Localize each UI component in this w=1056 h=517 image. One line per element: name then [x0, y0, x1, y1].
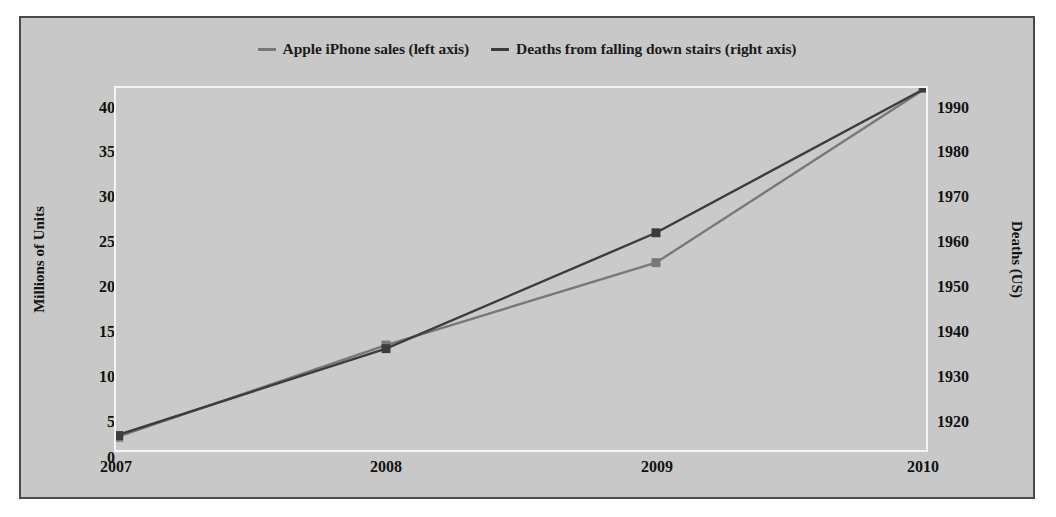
legend-item-iphone[interactable]: Apple iPhone sales (left axis)	[258, 40, 469, 58]
data-point-marker[interactable]	[382, 344, 391, 353]
series-line-2	[116, 88, 926, 436]
y-right-tick-1990: 1990	[937, 100, 969, 116]
y-left-tick-35: 35	[99, 144, 115, 160]
y-left-tick-40: 40	[99, 100, 115, 116]
chart-frame: Apple iPhone sales (left axis) Deaths fr…	[19, 16, 1035, 499]
y-right-tick-1930: 1930	[937, 369, 969, 385]
y-axis-left-title: Millions of Units	[27, 18, 51, 501]
plot-area	[114, 86, 928, 452]
y-right-tick-1920: 1920	[937, 414, 969, 430]
y-right-tick-1960: 1960	[937, 234, 969, 250]
legend-line-icon-deaths	[491, 48, 509, 51]
legend-label-deaths: Deaths from falling down stairs (right a…	[516, 40, 796, 58]
y-axis-left-title-text: Millions of Units	[31, 206, 48, 313]
y-right-tick-1970: 1970	[937, 189, 969, 205]
series-line-1	[116, 88, 926, 437]
legend-label-iphone: Apple iPhone sales (left axis)	[283, 40, 469, 58]
y-left-tick-20: 20	[99, 279, 115, 295]
y-axis-right-title-text: Deaths (US)	[1009, 221, 1026, 298]
plot-svg	[116, 88, 926, 450]
x-tick-2009: 2009	[641, 458, 673, 476]
data-point-marker[interactable]	[116, 431, 123, 440]
x-tick-2010: 2010	[907, 458, 939, 476]
y-left-tick-15: 15	[99, 324, 115, 340]
y-left-tick-25: 25	[99, 234, 115, 250]
data-point-marker[interactable]	[652, 258, 661, 267]
y-axis-left-ticks: 40 35 30 25 20 15 10 5 0	[49, 18, 115, 501]
data-point-marker[interactable]	[919, 88, 926, 92]
y-left-tick-10: 10	[99, 369, 115, 385]
y-axis-right-title: Deaths (US)	[1005, 18, 1029, 501]
y-left-tick-30: 30	[99, 189, 115, 205]
y-right-tick-1950: 1950	[937, 279, 969, 295]
chart-page: Apple iPhone sales (left axis) Deaths fr…	[0, 0, 1056, 517]
legend-item-deaths[interactable]: Deaths from falling down stairs (right a…	[491, 40, 796, 58]
y-right-tick-1980: 1980	[937, 144, 969, 160]
x-axis-ticks: 2007 2008 2009 2010	[114, 458, 928, 484]
y-right-tick-1940: 1940	[937, 324, 969, 340]
x-tick-2007: 2007	[100, 458, 132, 476]
y-axis-right-ticks: 1990 1980 1970 1960 1950 1940 1930 1920	[937, 18, 1007, 501]
series-layer	[116, 88, 926, 442]
legend-line-icon-iphone	[258, 48, 276, 51]
chart-legend: Apple iPhone sales (left axis) Deaths fr…	[21, 40, 1033, 58]
x-tick-2008: 2008	[370, 458, 402, 476]
data-point-marker[interactable]	[652, 228, 661, 237]
